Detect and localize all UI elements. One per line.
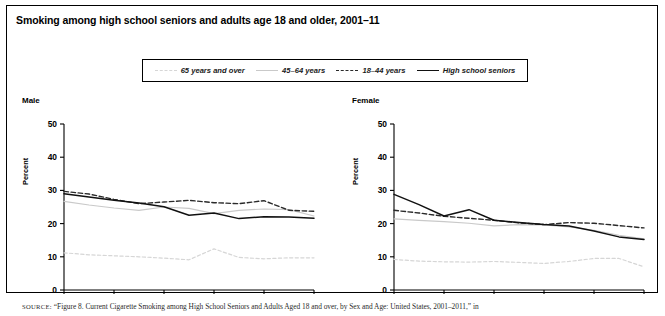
svg-text:30: 30 [48, 185, 58, 195]
panel-title-female: Female [352, 96, 380, 105]
svg-text:2007: 2007 [205, 296, 224, 297]
figure-container: Smoking among high school seniors and ad… [0, 0, 665, 316]
panel-title-male: Male [22, 96, 40, 105]
plot-area-female: Percent 01020304050200120032005200720092… [352, 107, 652, 297]
legend-line-icon-18-44 [336, 70, 358, 71]
chart-legend: 65 years and over 45–64 years 18–44 year… [142, 59, 528, 82]
svg-text:2005: 2005 [155, 296, 174, 297]
figure-title: Smoking among high school seniors and ad… [16, 14, 380, 26]
svg-text:2011: 2011 [305, 296, 322, 297]
svg-text:0: 0 [52, 285, 57, 295]
svg-text:2003: 2003 [105, 296, 124, 297]
legend-label-18-44: 18–44 years [362, 66, 405, 75]
legend-item-65-and-over[interactable]: 65 years and over [155, 66, 245, 75]
svg-text:2009: 2009 [255, 296, 274, 297]
legend-line-icon-45-64 [256, 70, 278, 71]
source-text: “Figure 8. Current Cigarette Smoking amo… [52, 302, 479, 311]
svg-text:2007: 2007 [535, 296, 554, 297]
svg-text:30: 30 [378, 185, 388, 195]
svg-text:20: 20 [48, 219, 58, 229]
svg-text:2001: 2001 [385, 296, 404, 297]
line-chart-male: 01020304050200120032005200720092011 [22, 107, 322, 297]
line-chart-female: 01020304050200120032005200720092011 [352, 107, 652, 297]
svg-text:50: 50 [378, 119, 388, 129]
svg-text:50: 50 [48, 119, 58, 129]
legend-label-high-school-seniors: High school seniors [443, 66, 516, 75]
legend-line-icon-65-and-over [155, 70, 177, 71]
source-note: SOURCE: “Figure 8. Current Cigarette Smo… [22, 302, 479, 311]
legend-label-65-and-over: 65 years and over [181, 66, 245, 75]
source-prefix: SOURCE: [22, 303, 52, 310]
svg-text:40: 40 [48, 152, 58, 162]
legend-item-high-school-seniors[interactable]: High school seniors [417, 66, 516, 75]
svg-text:2005: 2005 [485, 296, 504, 297]
svg-text:10: 10 [378, 252, 388, 262]
svg-text:2003: 2003 [435, 296, 454, 297]
svg-text:10: 10 [48, 252, 58, 262]
legend-label-45-64: 45–64 years [282, 66, 325, 75]
svg-text:0: 0 [382, 285, 387, 295]
plot-area-male: Percent 01020304050200120032005200720092… [22, 107, 322, 297]
legend-item-45-64[interactable]: 45–64 years [256, 66, 325, 75]
svg-text:20: 20 [378, 219, 388, 229]
svg-text:40: 40 [378, 152, 388, 162]
legend-item-18-44[interactable]: 18–44 years [336, 66, 405, 75]
svg-text:2009: 2009 [585, 296, 604, 297]
svg-text:2001: 2001 [55, 296, 74, 297]
svg-text:2011: 2011 [635, 296, 652, 297]
legend-line-icon-high-school-seniors [417, 70, 439, 71]
